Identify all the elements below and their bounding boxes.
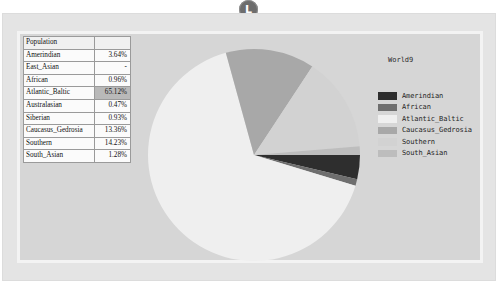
table-header-row: Population	[24, 37, 131, 50]
table-cell-value[interactable]: 65.12%	[95, 87, 131, 100]
table-row[interactable]: Atlantic_Baltic65.12%	[24, 87, 131, 100]
table-cell-value[interactable]: -	[95, 62, 131, 75]
population-table: Population Amerindian3.64%East_Asian-Afr…	[23, 36, 131, 163]
table-cell-population: Australasian	[24, 99, 95, 112]
legend-color-swatch	[378, 138, 397, 146]
table-row[interactable]: East_Asian-	[24, 62, 131, 75]
table-row[interactable]: Caucasus_Gedrosia13.36%	[24, 125, 131, 138]
legend-item-label: African	[402, 103, 431, 111]
table-body: Population Amerindian3.64%East_Asian-Afr…	[24, 37, 131, 163]
legend-color-swatch	[378, 127, 397, 135]
table-header-value	[95, 37, 131, 50]
legend-item[interactable]: Caucasus_Gedrosia	[378, 125, 484, 137]
table-row[interactable]: Southern14.23%	[24, 137, 131, 150]
legend-item[interactable]: South_Asian	[378, 148, 484, 160]
legend-item-label: Atlantic_Baltic	[402, 115, 464, 123]
legend-item-label: Southern	[402, 138, 435, 146]
pie-chart	[148, 46, 384, 264]
table-cell-population: Atlantic_Baltic	[24, 87, 95, 100]
chart-panel: Population Amerindian3.64%East_Asian-Afr…	[20, 34, 480, 260]
legend-item-label: Caucasus_Gedrosia	[402, 126, 472, 134]
legend-items: AmerindianAfricanAtlantic_BalticCaucasus…	[378, 90, 484, 159]
legend-color-swatch	[378, 92, 397, 100]
inner-frame: Population Amerindian3.64%East_Asian-Afr…	[17, 31, 483, 263]
legend-item[interactable]: Southern	[378, 136, 484, 148]
table-row[interactable]: Amerindian3.64%	[24, 49, 131, 62]
table-cell-value[interactable]: 3.64%	[95, 49, 131, 62]
table-cell-value[interactable]: 14.23%	[95, 137, 131, 150]
legend-item-label: South_Asian	[402, 149, 447, 157]
outer-frame: Population Amerindian3.64%East_Asian-Afr…	[2, 13, 496, 281]
table-cell-population: East_Asian	[24, 62, 95, 75]
table-row[interactable]: African0.96%	[24, 74, 131, 87]
table-cell-value[interactable]: 0.93%	[95, 112, 131, 125]
legend-title: World9	[388, 56, 484, 64]
table-row[interactable]: Siberian0.93%	[24, 112, 131, 125]
table-cell-population: Southern	[24, 137, 95, 150]
table-cell-population: Siberian	[24, 112, 95, 125]
table-cell-population: South_Asian	[24, 150, 95, 163]
legend-item[interactable]: African	[378, 102, 484, 114]
legend-item-label: Amerindian	[402, 92, 443, 100]
table-cell-population: Caucasus_Gedrosia	[24, 125, 95, 138]
table-row[interactable]: Australasian0.47%	[24, 99, 131, 112]
table-cell-population: Amerindian	[24, 49, 95, 62]
table-cell-value[interactable]: 0.47%	[95, 99, 131, 112]
chart-legend: World9 AmerindianAfricanAtlantic_BalticC…	[378, 56, 484, 159]
legend-color-swatch	[378, 104, 397, 112]
table-cell-population: African	[24, 74, 95, 87]
legend-item[interactable]: Amerindian	[378, 90, 484, 102]
screenshot-root: L Population Amerindian3.64%East_Asian-A…	[0, 0, 498, 281]
table-row[interactable]: South_Asian1.28%	[24, 150, 131, 163]
legend-color-swatch	[378, 150, 397, 158]
table-cell-value[interactable]: 1.28%	[95, 150, 131, 163]
table-cell-value[interactable]: 13.36%	[95, 125, 131, 138]
table-header-population: Population	[24, 37, 95, 50]
legend-color-swatch	[378, 115, 397, 123]
legend-item[interactable]: Atlantic_Baltic	[378, 113, 484, 125]
table-cell-value[interactable]: 0.96%	[95, 74, 131, 87]
pie-chart-svg	[148, 46, 384, 264]
